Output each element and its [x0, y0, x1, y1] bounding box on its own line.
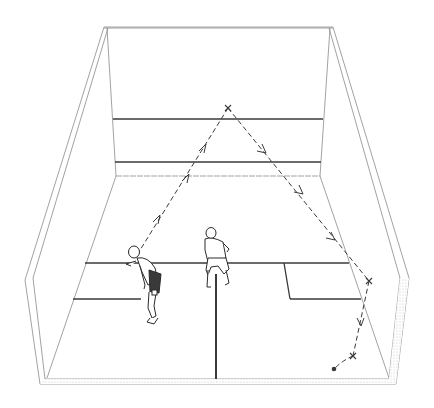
cross-icon	[225, 105, 231, 111]
right-wall-top-edge	[333, 27, 409, 278]
floor-markings	[73, 263, 361, 379]
back-wall-thickness	[40, 379, 396, 384]
left-wall-top-edge	[25, 27, 104, 280]
player-hitting	[126, 246, 161, 324]
right-service-box-side	[284, 263, 290, 299]
squash-court-diagram	[0, 0, 434, 408]
court-drawing	[0, 0, 434, 408]
impact-markers	[225, 105, 372, 359]
front-wall-markings	[113, 119, 323, 162]
ball	[332, 367, 337, 372]
front-wall-right-edge	[320, 28, 330, 176]
right-wall-thickness	[389, 278, 409, 384]
left-floor-edge	[47, 176, 116, 378]
arrow-icon	[153, 215, 160, 224]
front-wall-left-edge	[107, 28, 116, 176]
